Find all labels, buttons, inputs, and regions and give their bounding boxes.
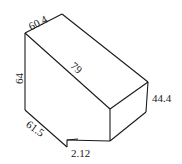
label-notch: 2.12 <box>71 147 90 159</box>
edge-right-top <box>110 82 148 109</box>
edge-slant <box>25 33 110 109</box>
label-bottom-left: 61.5 <box>24 118 47 139</box>
solid-diagram: 60.4 79 64 44.4 61.5 2.12 <box>0 0 182 164</box>
edge-right-vertical <box>146 82 148 112</box>
label-top-edge: 60.4 <box>26 13 49 33</box>
label-left-height: 64 <box>13 73 25 85</box>
edge-right-bottom <box>110 112 146 141</box>
edge-bottom-front <box>67 140 110 141</box>
label-right-height: 44.4 <box>152 92 172 104</box>
